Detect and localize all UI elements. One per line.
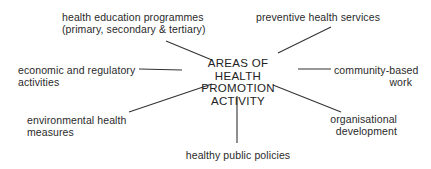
node-preventive-health-line1: preventive health services — [256, 11, 380, 23]
node-preventive-health: preventive health services — [256, 11, 380, 23]
node-community-based-line1: community-based — [334, 64, 412, 76]
node-organisational-development: organisational development — [325, 113, 397, 137]
node-community-based-line2: work — [334, 76, 412, 88]
node-environmental-health-line1: environmental health — [27, 114, 126, 126]
central-concept-line3: ACTIVITY — [183, 95, 293, 108]
central-concept: AREAS OF HEALTH PROMOTION ACTIVITY — [183, 57, 293, 107]
central-concept-line2: HEALTH PROMOTION — [183, 70, 293, 95]
node-environmental-health-line2: measures — [27, 126, 126, 138]
central-concept-line1: AREAS OF — [183, 57, 293, 70]
node-health-education: health education programmes (primary, se… — [62, 11, 206, 35]
node-economic-regulatory: economic and regulatory activities — [18, 64, 135, 88]
node-community-based: community-based work — [334, 64, 412, 88]
node-organisational-development-line2: development — [325, 125, 397, 137]
node-healthy-public-policies-line1: healthy public policies — [180, 149, 296, 161]
connector-economic-regulatory — [139, 69, 182, 70]
node-organisational-development-line1: organisational — [325, 113, 397, 125]
node-health-education-line1: health education programmes — [62, 11, 206, 23]
node-economic-regulatory-line2: activities — [18, 76, 135, 88]
node-environmental-health: environmental health measures — [27, 114, 126, 138]
node-health-education-line2: (primary, secondary & tertiary) — [62, 23, 206, 35]
connector-preventive-health — [278, 27, 331, 53]
node-healthy-public-policies: healthy public policies — [180, 149, 296, 161]
node-economic-regulatory-line1: economic and regulatory — [18, 64, 135, 76]
